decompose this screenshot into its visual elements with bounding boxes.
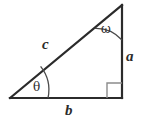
hypotenuse-edge-c bbox=[10, 5, 122, 98]
right-triangle-diagram: c a b ω θ bbox=[0, 0, 144, 121]
right-angle-marker bbox=[107, 83, 122, 98]
side-label-a: a bbox=[126, 49, 134, 64]
angle-label-theta: θ bbox=[33, 81, 40, 93]
side-label-b: b bbox=[65, 103, 73, 118]
angle-label-omega: ω bbox=[101, 23, 111, 35]
side-label-c: c bbox=[42, 37, 49, 52]
